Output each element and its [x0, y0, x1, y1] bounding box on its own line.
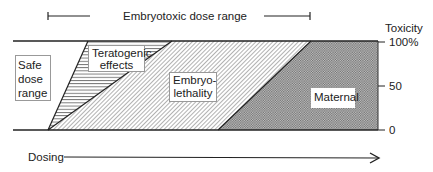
y-tick-50: 50 [389, 80, 402, 93]
embryotoxic-range-label: Embryotoxic dose range [123, 10, 247, 23]
teratogenic-effects-label: Teratogenic effects [88, 45, 145, 72]
y-axis-label: Toxicity [385, 22, 423, 35]
dosing-arrow [64, 153, 379, 163]
embryolethality-label: Embryo- lethality [169, 72, 217, 102]
y-tick-100: 100% [389, 36, 418, 49]
y-axis-ticks [378, 42, 385, 130]
maternal-label: Maternal [311, 88, 355, 108]
y-tick-0: 0 [389, 124, 395, 137]
safe-dose-range-label: Safe dose range [15, 55, 51, 101]
x-axis-label: Dosing [28, 151, 64, 164]
